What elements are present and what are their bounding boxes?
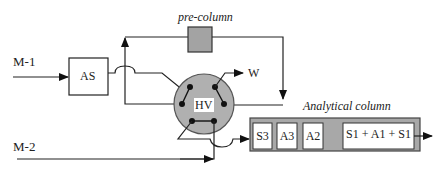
m1-label: M-1: [13, 55, 35, 68]
segment-s1-a1-s1-label: S1 + A1 + S1: [343, 128, 414, 140]
precolumn-label: pre-column: [178, 11, 233, 23]
autosampler-label: AS: [80, 70, 95, 82]
flow-diagram: [0, 0, 443, 173]
waste-label: W: [248, 67, 259, 79]
segment-a3-label: A3: [277, 130, 297, 142]
valve-to-precolumn-line: [125, 38, 182, 104]
m2-label: M-2: [13, 140, 35, 153]
precolumn-box: [188, 27, 212, 52]
segment-s3-label: S3: [253, 130, 272, 142]
segment-a2-label: A2: [303, 130, 323, 142]
analytical-column-label: Analytical column: [303, 100, 391, 112]
valve-label: HV: [195, 99, 212, 111]
